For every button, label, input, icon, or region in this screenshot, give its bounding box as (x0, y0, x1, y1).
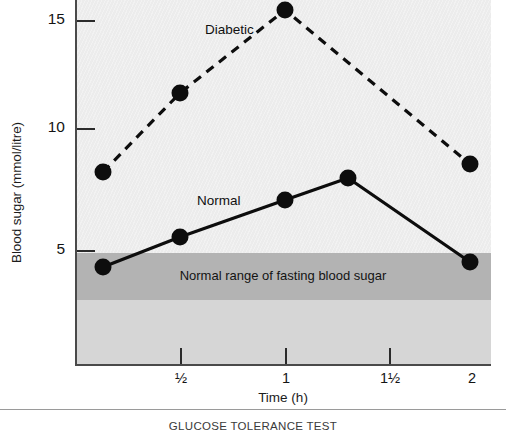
plot-area: Normal range of fasting blood sugar 15 1… (75, 0, 491, 366)
series-label-normal: Normal (197, 193, 241, 208)
x-axis-title: Time (h) (75, 390, 491, 405)
y-tick-label-15: 15 (35, 10, 65, 28)
normal-point (172, 229, 189, 246)
normal-point (95, 259, 112, 276)
x-tick-label-1half: 1½ (368, 370, 412, 386)
series-label-diabetic: Diabetic (205, 22, 254, 37)
normal-point (462, 254, 479, 271)
diabetic-point (95, 164, 112, 181)
x-tick-label-half: ½ (159, 370, 203, 386)
x-tick-label-2: 2 (450, 370, 494, 386)
y-tick-label-5: 5 (35, 240, 65, 258)
figure-caption: GLUCOSE TOLERANCE TEST (0, 420, 506, 432)
diabetic-line (103, 10, 470, 172)
diabetic-point (462, 156, 479, 173)
normal-point (340, 170, 357, 187)
normal-point (277, 192, 294, 209)
normal-line (103, 178, 470, 267)
x-tick-label-1: 1 (264, 370, 308, 386)
diabetic-point (277, 2, 294, 19)
data-curves (75, 0, 491, 366)
y-tick-label-10: 10 (35, 118, 65, 136)
y-axis-title: Blood sugar (mmol/litre) (9, 83, 24, 303)
diabetic-point (172, 85, 189, 102)
glucose-tolerance-test-figure: Blood sugar (mmol/litre) Normal range of… (0, 0, 506, 433)
caption-divider (0, 409, 506, 410)
